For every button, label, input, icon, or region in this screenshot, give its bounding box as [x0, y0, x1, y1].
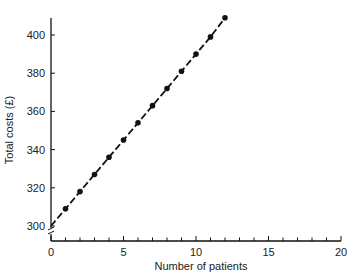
axis-break-mark	[48, 231, 54, 234]
y-tick-label: 400	[27, 29, 45, 41]
y-tick-label: 320	[27, 182, 45, 194]
x-tick-label: 5	[120, 246, 126, 258]
data-point	[92, 172, 98, 178]
data-point	[121, 137, 127, 143]
x-tick-label: 15	[262, 246, 274, 258]
data-point	[63, 206, 69, 212]
y-tick-label: 380	[27, 67, 45, 79]
x-tick-label: 20	[335, 246, 347, 258]
data-point	[77, 189, 83, 195]
data-point	[193, 51, 199, 57]
y-tick-label: 300	[27, 220, 45, 232]
x-tick-label: 10	[190, 246, 202, 258]
data-point	[150, 103, 156, 109]
y-tick-label: 360	[27, 105, 45, 117]
y-axis-label: Total costs (£)	[3, 96, 15, 164]
line-chart: 05101520300320340360380400Number of pati…	[0, 0, 360, 280]
data-point	[106, 154, 112, 160]
x-axis-label: Number of patients	[155, 260, 248, 272]
data-point	[164, 86, 170, 92]
y-tick-label: 340	[27, 144, 45, 156]
data-point	[179, 68, 185, 74]
data-point	[222, 15, 228, 21]
data-point	[208, 34, 214, 40]
data-point	[135, 120, 141, 126]
x-tick-label: 0	[48, 246, 54, 258]
